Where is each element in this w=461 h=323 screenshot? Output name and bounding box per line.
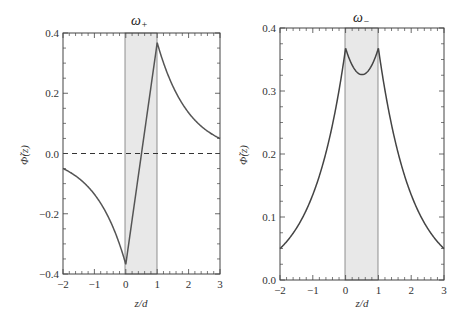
svg-text:−0.2: −0.2 — [39, 208, 59, 220]
svg-text:0.3: 0.3 — [262, 85, 276, 97]
y-axis-label: Φ̃(z) — [18, 145, 31, 165]
right-panel: −2−101230.00.10.20.30.4 ω− z/d Φ̃(z) — [237, 10, 447, 309]
x-axis-label: z/d — [355, 297, 369, 309]
svg-text:0: 0 — [123, 278, 129, 290]
y-axis-label: Φ̃(z) — [237, 145, 250, 165]
svg-text:0.0: 0.0 — [45, 148, 59, 160]
svg-text:0: 0 — [343, 284, 349, 296]
svg-text:0.2: 0.2 — [45, 87, 59, 99]
svg-text:0.4: 0.4 — [262, 22, 276, 34]
left-panel: −2−10123−0.4−0.20.00.20.4 ω+ z/d Φ̃(z) — [18, 13, 223, 309]
svg-text:0.0: 0.0 — [262, 274, 276, 286]
svg-text:0.4: 0.4 — [45, 27, 59, 39]
svg-text:−0.4: −0.4 — [39, 268, 59, 280]
panel-title: ω+ — [131, 13, 148, 30]
panel-title: ω− — [353, 10, 370, 27]
svg-text:2: 2 — [408, 284, 414, 296]
svg-text:0.2: 0.2 — [262, 148, 276, 160]
svg-text:1: 1 — [376, 284, 382, 296]
svg-text:−1: −1 — [307, 284, 319, 296]
svg-text:1: 1 — [154, 278, 160, 290]
figure: −2−10123−0.4−0.20.00.20.4 ω+ z/d Φ̃(z) −… — [0, 0, 461, 323]
svg-text:0.1: 0.1 — [262, 211, 276, 223]
svg-text:−1: −1 — [89, 278, 101, 290]
svg-text:3: 3 — [441, 284, 447, 296]
x-axis-label: z/d — [134, 297, 148, 309]
svg-text:2: 2 — [186, 278, 192, 290]
shaded-region — [345, 28, 378, 280]
svg-text:3: 3 — [217, 278, 223, 290]
